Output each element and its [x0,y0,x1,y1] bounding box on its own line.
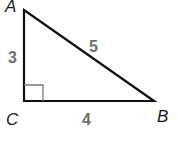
triangle-diagram: A C B 3 4 5 [0,0,178,145]
vertex-label-c: C [6,110,19,129]
vertex-label-a: A [4,0,16,16]
vertex-label-b: B [157,107,168,126]
side-label-ac: 3 [8,49,17,66]
right-angle-marker [24,85,43,101]
side-label-ab: 5 [89,38,98,55]
side-label-cb: 4 [82,111,91,128]
